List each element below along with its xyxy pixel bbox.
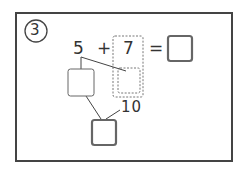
equation-equals: =	[149, 40, 163, 57]
problem-number: 3	[30, 23, 40, 38]
result-box[interactable]	[92, 120, 116, 145]
part-box[interactable]	[68, 69, 94, 96]
split-box[interactable]	[118, 68, 140, 93]
equation-operator: +	[97, 40, 111, 57]
ten-label: 10	[121, 100, 142, 115]
answer-box[interactable]	[168, 36, 192, 61]
equation-right: 7	[123, 40, 134, 57]
equation-left: 5	[73, 40, 84, 57]
